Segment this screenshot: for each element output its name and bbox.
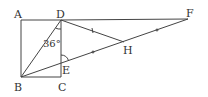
label-H: H (123, 44, 133, 57)
label-C: C (58, 81, 66, 94)
label-E: E (62, 64, 70, 77)
label-B: B (14, 81, 22, 94)
label-A: A (13, 8, 23, 21)
segment-DF (61, 19, 188, 20)
angle-arc-DEH (61, 55, 69, 61)
tick-mark-DH (92, 28, 93, 33)
geometry-figure: A D F B C E H 36° (0, 0, 208, 97)
label-D: D (56, 8, 65, 21)
angle-label-36: 36° (43, 38, 61, 49)
angle-arc-BDC (56, 28, 62, 29)
label-F: F (186, 7, 194, 20)
